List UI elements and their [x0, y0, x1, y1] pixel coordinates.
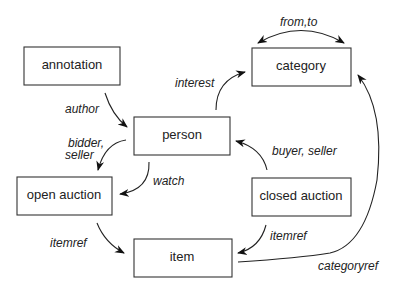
node-person: person	[134, 117, 230, 155]
edge-label-itemref-open: itemref	[50, 236, 88, 250]
edge-label-from-to: from,to	[280, 15, 318, 29]
node-category: category	[252, 48, 351, 86]
schema-diagram: annotation category person open auction …	[0, 0, 397, 290]
edge-label-author: author	[65, 102, 100, 116]
edge-label-watch: watch	[153, 174, 185, 188]
node-label: closed auction	[259, 188, 342, 203]
edge-label-categoryref: categoryref	[318, 259, 380, 273]
edge-label-itemref-closed: itemref	[270, 229, 308, 243]
edge-label-buyer-seller: buyer, seller	[272, 144, 338, 158]
edge-label-seller: seller	[65, 148, 95, 162]
edge-itemref-closed	[238, 225, 266, 253]
edge-label-interest: interest	[175, 76, 215, 90]
edge-from-to	[258, 31, 344, 44]
node-label: person	[162, 127, 202, 142]
node-label: item	[170, 249, 195, 264]
edge-buyer-seller	[236, 141, 267, 170]
node-label: category	[276, 58, 326, 73]
edge-categoryref	[238, 75, 379, 262]
edge-watch	[120, 162, 149, 194]
node-open-auction: open auction	[17, 177, 112, 215]
edge-itemref-open	[97, 223, 124, 253]
node-item: item	[134, 239, 232, 277]
node-label: annotation	[42, 57, 103, 72]
node-annotation: annotation	[24, 47, 120, 85]
node-closed-auction: closed auction	[252, 178, 351, 216]
edge-author	[105, 93, 127, 127]
edge-interest	[216, 72, 245, 110]
node-label: open auction	[27, 187, 101, 202]
